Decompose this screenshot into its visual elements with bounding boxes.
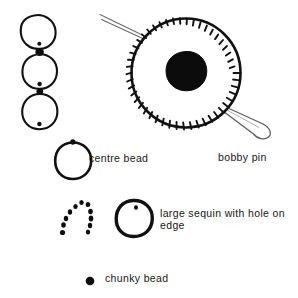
scatter-bead: [79, 200, 83, 205]
chain-sequin-1-hole: [37, 42, 41, 46]
centre-bead-sequin-outline: [55, 142, 91, 179]
legend-swatch-large-sequin: [116, 200, 152, 236]
label-chunky-bead: chunky bead: [105, 272, 168, 284]
scattered-chunky-beads: [60, 200, 93, 235]
large-sequin-outline: [116, 200, 152, 236]
scatter-bead: [64, 216, 68, 221]
chunky-bead-swatch: [86, 277, 95, 286]
bead-chain-drawing: [21, 15, 58, 129]
chain-sequin-3-hole: [37, 122, 41, 126]
large-sequin-centre-bead: [166, 51, 207, 90]
scatter-bead: [73, 204, 77, 209]
scatter-bead: [89, 216, 94, 222]
scatter-bead: [60, 230, 65, 235]
legend-swatch-centre-bead: [55, 139, 91, 179]
chain-sequin-2-hole: [37, 82, 41, 87]
label-large-sequin: large sequin with hole on edge: [160, 207, 298, 231]
label-centre-bead: centre bead: [89, 152, 148, 164]
scatter-bead: [88, 209, 93, 215]
main-assembly-drawing: [100, 15, 270, 139]
label-bobby-pin: bobby pin: [218, 151, 267, 163]
illustration-svg: [0, 0, 298, 298]
centre-bead-hole: [70, 139, 75, 145]
scatter-bead: [61, 222, 66, 227]
scatter-bead: [86, 202, 91, 207]
scatter-bead: [86, 230, 90, 235]
scatter-bead: [68, 209, 72, 214]
diagram-canvas: centre bead bobby pin large sequin with …: [0, 0, 298, 298]
scatter-bead: [88, 223, 92, 228]
large-sequin-edge-hole: [134, 205, 138, 209]
